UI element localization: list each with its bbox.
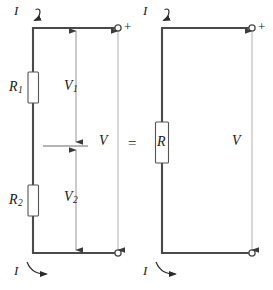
resistor-r2-label: R2 [9,193,23,209]
current-arrow-bottom-left [27,262,47,274]
resistor-r1-label-base: R [9,79,18,94]
current-arrow-top-left [35,9,40,20]
right-terminal-positive-node [249,25,255,31]
current-label-top-left: I [14,4,18,17]
right-terminal-positive-label: + [258,20,265,33]
left-terminal-positive-node [115,25,121,31]
voltage-v2-label: V2 [64,190,78,206]
voltage-v2-label-sub: 2 [73,195,78,205]
resistor-r1-label-sub: 1 [18,85,23,95]
current-label-bottom-right: I [143,264,147,277]
equals-sign: = [128,136,136,151]
circuit-diagram-figure: I I R1 R2 V1 V2 V + = I I R V + [0,0,273,290]
current-label-bottom-left: I [14,264,18,277]
voltage-v-total-label: V [99,134,108,148]
voltage-v1-label-base: V [64,78,73,93]
right-voltage-v-label: V [232,134,241,148]
current-arrow-top-right [164,9,169,20]
voltage-v2-label-base: V [64,189,73,204]
voltage-v1-label: V1 [64,79,78,95]
current-label-top-right: I [143,4,147,17]
resistor-r2-label-base: R [9,192,18,207]
resistor-r2-symbol [28,185,39,216]
right-terminal-negative-node [249,250,255,256]
resistor-r1-symbol [28,72,39,103]
resistor-r1-label: R1 [9,80,23,96]
resistor-r-label: R [157,135,166,149]
left-terminal-positive-label: + [124,20,131,33]
left-terminal-negative-node [115,250,121,256]
voltage-v1-label-sub: 1 [73,84,78,94]
resistor-r2-label-sub: 2 [18,198,23,208]
current-arrow-bottom-right [156,262,176,274]
